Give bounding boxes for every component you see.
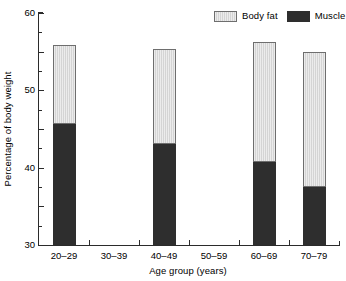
- bar-segment-body-fat: [153, 49, 176, 145]
- y-tick-minor: [39, 32, 42, 33]
- light-gray-swatch-icon: [214, 11, 237, 22]
- legend-label-muscle: Muscle: [315, 11, 346, 21]
- bar-group: [53, 45, 76, 245]
- y-tick-label: 50: [24, 86, 35, 96]
- y-tick-label: 60: [24, 8, 35, 18]
- bar-segment-body-fat: [303, 52, 326, 187]
- stacked-bar-chart-figure: Percentage of body weight Age group (yea…: [0, 0, 346, 281]
- y-tick-label: 30: [24, 240, 35, 250]
- x-tick: [239, 240, 240, 245]
- legend-label-body-fat: Body fat: [242, 11, 278, 21]
- y-tick-minor: [39, 187, 42, 188]
- y-tick-major: 20: [39, 168, 44, 169]
- x-tick-label: 50–59: [201, 251, 227, 261]
- bar-segment-body-fat: [53, 45, 76, 124]
- bar-group: [303, 52, 326, 245]
- dark-swatch-icon: [287, 11, 310, 22]
- bar-segment-body-fat: [253, 42, 276, 162]
- x-tick: [89, 240, 90, 245]
- x-tick: [189, 240, 190, 245]
- x-tick: [289, 240, 290, 245]
- y-tick-minor: [39, 226, 42, 227]
- y-tick-major: 30: [39, 129, 44, 130]
- y-axis-title: Percentage of body weight: [1, 13, 14, 245]
- chart-legend: Body fat Muscle: [214, 8, 345, 24]
- bar-segment-muscle: [303, 187, 326, 245]
- plot-area: 0102030405060 20–2930–3940–4950–5960–697…: [38, 13, 339, 246]
- legend-entry-muscle: Muscle: [287, 11, 346, 22]
- bar-group: [253, 42, 276, 245]
- bar-group: [153, 49, 176, 245]
- x-tick-label: 60–69: [251, 251, 277, 261]
- x-axis-title: Age group (years): [38, 265, 338, 276]
- y-tick-major: 10: [39, 206, 44, 207]
- y-tick-major: 40: [39, 90, 44, 91]
- y-tick-major: 60: [39, 13, 44, 14]
- x-tick-label: 70–79: [301, 251, 327, 261]
- x-tick: [139, 240, 140, 245]
- legend-entry-body-fat: Body fat: [214, 11, 278, 22]
- x-tick-label: 40–49: [151, 251, 177, 261]
- y-tick-label: 40: [24, 163, 35, 173]
- y-tick-major: 50: [39, 52, 44, 53]
- bar-segment-muscle: [53, 124, 76, 245]
- y-tick-minor: [39, 71, 42, 72]
- y-tick-minor: [39, 148, 42, 149]
- x-tick-label: 30–39: [101, 251, 127, 261]
- y-tick-major: 0: [39, 245, 44, 246]
- bar-segment-muscle: [153, 144, 176, 245]
- bar-segment-muscle: [253, 162, 276, 245]
- x-tick-label: 20–29: [51, 251, 77, 261]
- y-tick-minor: [39, 110, 42, 111]
